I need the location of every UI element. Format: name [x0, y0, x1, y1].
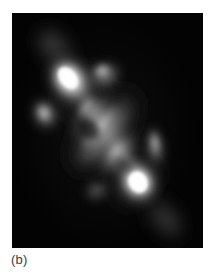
- panel-caption-label: (b): [11, 252, 28, 268]
- figure-panel-b: (b): [0, 0, 215, 274]
- emission-map-svg: [12, 13, 203, 248]
- radio-map-image: [12, 13, 203, 248]
